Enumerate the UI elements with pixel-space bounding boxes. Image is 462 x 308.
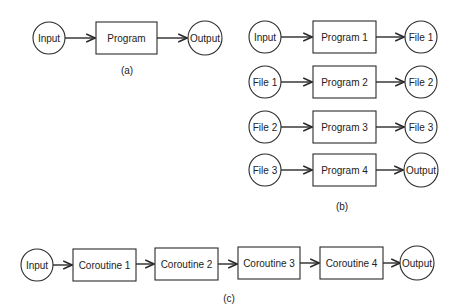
file-3-label: File 3 xyxy=(253,165,278,176)
program-2-label: Program 2 xyxy=(321,77,368,88)
coroutine-diagram: Input Program Output (a) Input Program 1… xyxy=(0,0,462,308)
file-2-label: File 2 xyxy=(409,77,434,88)
program-node: Program xyxy=(96,22,157,54)
caption-a: (a) xyxy=(121,65,133,76)
output-label: Output xyxy=(406,165,436,176)
program-1-label: Program 1 xyxy=(321,32,368,43)
program-label: Program xyxy=(107,33,145,44)
input-node: Input xyxy=(33,22,65,54)
panel-c: Input Coroutine 1 Coroutine 2 Coroutine … xyxy=(21,246,434,304)
input-label: Input xyxy=(254,32,276,43)
row-4: File 3 Program 4 Output xyxy=(249,153,438,187)
output-label: Output xyxy=(402,258,432,269)
row-1: Input Program 1 File 1 xyxy=(249,21,437,53)
program-3-label: Program 3 xyxy=(321,122,368,133)
panel-a: Input Program Output (a) xyxy=(33,21,222,76)
output-node: Output xyxy=(188,21,222,55)
panel-b: Input Program 1 File 1 File 1 Program 2 … xyxy=(249,21,438,212)
output-label: Output xyxy=(190,33,220,44)
row-2: File 1 Program 2 File 2 xyxy=(249,66,437,98)
coroutine-3-label: Coroutine 3 xyxy=(243,258,295,269)
program-4-label: Program 4 xyxy=(321,165,368,176)
file-3-label: File 3 xyxy=(409,122,434,133)
caption-c: (c) xyxy=(223,293,235,304)
input-label: Input xyxy=(38,33,60,44)
row-3: File 2 Program 3 File 3 xyxy=(249,111,437,143)
file-2-label: File 2 xyxy=(253,122,278,133)
coroutine-1-label: Coroutine 1 xyxy=(79,260,131,271)
file-1-label: File 1 xyxy=(409,32,434,43)
file-1-label: File 1 xyxy=(253,77,278,88)
coroutine-4-label: Coroutine 4 xyxy=(326,258,378,269)
caption-b: (b) xyxy=(336,201,348,212)
coroutine-2-label: Coroutine 2 xyxy=(161,259,213,270)
input-label: Input xyxy=(26,260,48,271)
